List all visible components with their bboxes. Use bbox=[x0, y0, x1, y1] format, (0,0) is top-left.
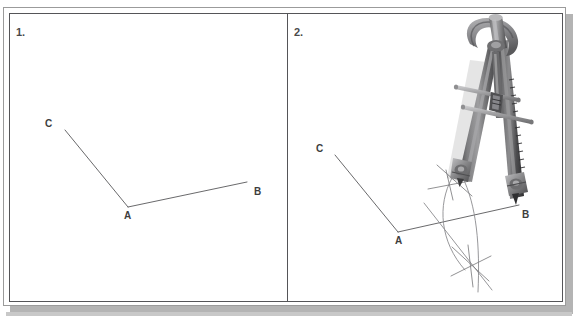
panel-2-label-a: A bbox=[395, 235, 402, 246]
panel-2-label-b: B bbox=[522, 209, 529, 220]
panel-1-number: 1. bbox=[16, 26, 25, 38]
compass-needle-clamp bbox=[505, 172, 528, 196]
figure-canvas: 1. C A B 2. bbox=[0, 0, 576, 321]
compass-adjuster-block bbox=[489, 92, 503, 113]
panel-2-label-c: C bbox=[316, 143, 323, 154]
panel-1-label-b: B bbox=[254, 186, 261, 197]
compass-pencil-clamp bbox=[450, 158, 472, 182]
inner-frame bbox=[10, 14, 563, 302]
panel-1-label-c: C bbox=[45, 118, 52, 129]
panel-1-label-a: A bbox=[124, 210, 131, 221]
compass-hinge bbox=[487, 40, 505, 52]
geometry-figure: 1. C A B 2. bbox=[0, 0, 576, 321]
panel-2-number: 2. bbox=[294, 26, 303, 38]
